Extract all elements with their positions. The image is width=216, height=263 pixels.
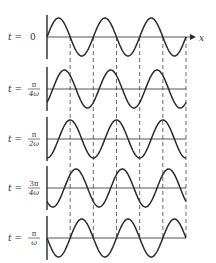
time-label: t = <box>8 183 22 193</box>
wave-panel: t =π2ω <box>8 117 186 161</box>
time-denominator: 2ω <box>28 140 39 148</box>
time-denominator: ω <box>31 239 37 247</box>
time-denominator: 4ω <box>28 90 39 98</box>
time-denominator: 4ω <box>28 189 39 197</box>
wave-panel: xt =0 <box>8 15 204 59</box>
wave-diagram: xt =0t =π4ωt =π2ωt =3π4ωt =πω <box>0 0 216 263</box>
time-numerator: π <box>32 131 37 139</box>
x-axis-arrow-icon <box>190 34 196 40</box>
time-label: t = <box>8 233 22 243</box>
time-numerator: π <box>32 81 37 89</box>
time-label: t = <box>8 134 22 144</box>
time-label: t = <box>8 84 22 94</box>
wave-panel: t =π4ω <box>8 67 186 111</box>
wave-panel: t =πω <box>8 216 186 260</box>
time-numerator: π <box>32 230 37 238</box>
wave-panel: t =3π4ω <box>8 166 186 210</box>
time-label: t = <box>8 32 22 42</box>
time-numerator: 3π <box>29 180 38 188</box>
x-axis-label: x <box>199 33 204 43</box>
time-value: 0 <box>30 32 36 42</box>
wave-panels: xt =0t =π4ωt =π2ωt =3π4ωt =πω <box>8 15 204 260</box>
